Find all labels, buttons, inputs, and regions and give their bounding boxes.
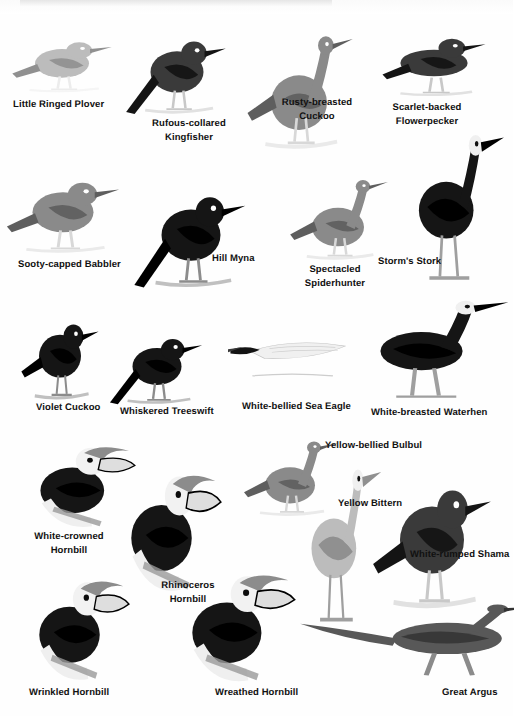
bird-illustration-little-ringed-plover-art xyxy=(8,26,116,94)
species-label-white-rumped-shama: White-rumped Shama xyxy=(410,548,514,562)
bird-illustration-great-argus-art xyxy=(296,598,506,690)
bird-illustration-rusty-breasted-cuckoo-art xyxy=(243,22,355,152)
species-label-wrinkled-hornbill: Wrinkled Hornbill xyxy=(29,686,121,700)
species-label-great-argus: Great Argus xyxy=(442,686,506,700)
species-label-little-ringed-plover: Little Ringed Plover xyxy=(13,98,123,112)
bird-illustration-scarlet-backed-flowerpecker-art xyxy=(378,20,490,98)
species-label-violet-cuckoo: Violet Cuckoo xyxy=(36,401,108,415)
bird-illustration-wrinkled-hornbill-art xyxy=(18,558,130,686)
species-label-white-crowned-hornbill: White-crowned Hornbill xyxy=(21,530,117,558)
species-label-wreathed-hornbill: Wreathed Hornbill xyxy=(215,686,309,700)
species-label-storms-stork: Storm's Stork xyxy=(378,255,452,269)
species-label-rufous-collared-kingfisher: Rufous-collared Kingfisher xyxy=(139,117,239,145)
bird-illustration-sooty-capped-babbler-art xyxy=(2,160,124,255)
species-label-sooty-capped-babbler: Sooty-capped Babbler xyxy=(18,258,128,272)
bird-illustration-violet-cuckoo-art xyxy=(18,300,102,402)
species-label-rusty-breasted-cuckoo: Rusty-breasted Cuckoo xyxy=(274,96,360,124)
species-label-hill-myna: Hill Myna xyxy=(212,252,264,266)
species-label-white-bellied-sea-eagle: White-bellied Sea Eagle xyxy=(242,400,358,414)
bird-illustration-rufous-collared-kingfisher-art xyxy=(124,18,230,116)
species-label-scarlet-backed-flowerpecker: Scarlet-backed Flowerpecker xyxy=(382,101,472,129)
bird-illustration-wreathed-hornbill-art xyxy=(168,550,296,688)
species-label-spectacled-spiderhunter: Spectacled Spiderhunter xyxy=(296,263,374,291)
species-label-yellow-bittern: Yellow Bittern xyxy=(338,497,414,511)
bird-illustration-white-breasted-waterhen-art xyxy=(352,296,510,402)
scan-band-artifact xyxy=(20,0,332,6)
species-label-rhinoceros-hornbill: Rhinoceros Hornbill xyxy=(147,579,229,607)
bird-illustration-whiskered-treeswift-art xyxy=(108,318,206,406)
bird-illustration-white-bellied-sea-eagle-art xyxy=(228,330,350,392)
species-label-yellow-bellied-bulbul: Yellow-bellied Bulbul xyxy=(325,439,435,453)
bird-illustration-white-rumped-shama-art xyxy=(368,452,496,612)
bird-illustration-spectacled-spiderhunter-art xyxy=(286,170,390,262)
species-label-whiskered-treeswift: Whiskered Treeswift xyxy=(120,405,224,419)
bird-illustration-hill-myna-art xyxy=(132,168,250,290)
species-label-white-breasted-waterhen: White-breasted Waterhen xyxy=(371,406,503,420)
